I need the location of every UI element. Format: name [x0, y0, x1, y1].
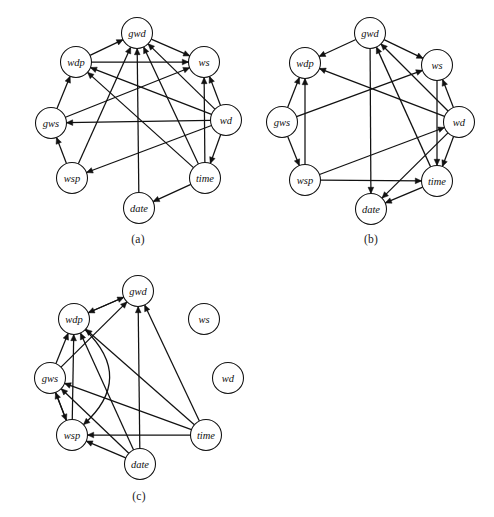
edge-time-to-ws — [204, 78, 205, 163]
node-wsp[interactable]: wsp — [290, 165, 321, 196]
node-label-wd: wd — [222, 373, 235, 384]
arrowhead-gwd-to-date — [368, 187, 374, 193]
node-gwd[interactable]: gwd — [355, 18, 386, 49]
node-wsp[interactable]: wsp — [57, 163, 88, 194]
node-label-gws: gws — [43, 118, 59, 129]
arrowhead-time-to-wsp — [88, 432, 94, 438]
node-ws[interactable]: ws — [189, 47, 220, 78]
arrowhead-time-to-gwd — [376, 47, 381, 54]
graph-panel-c: gwdwdpwsgwswdwsptimedate — [0, 255, 262, 490]
node-wd[interactable]: wd — [444, 107, 475, 138]
arrowhead-gwd-to-wdp — [319, 51, 326, 56]
node-date[interactable]: date — [124, 193, 155, 224]
node-label-gws: gws — [42, 373, 58, 384]
arrowhead-wd-to-ws — [442, 79, 447, 86]
arrowhead-wsp-to-wdp — [302, 79, 308, 85]
arrowhead-ws-to-time — [434, 159, 440, 165]
node-label-wd: wd — [453, 117, 466, 128]
node-label-wsp: wsp — [64, 430, 80, 441]
arrowhead-wd-to-gws — [67, 120, 73, 126]
arrowhead-date-to-wdp — [80, 333, 85, 340]
arrowhead-wsp-to-gws — [56, 137, 61, 144]
arrowhead-time-to-gws — [65, 383, 72, 388]
node-label-wdp: wdp — [67, 57, 85, 68]
node-gws[interactable]: gws — [35, 363, 66, 394]
arrowhead-time-to-date — [385, 198, 392, 203]
node-label-time: time — [197, 430, 215, 441]
edge-wdp-to-wsp — [84, 330, 110, 425]
arrowhead-wdp-to-gwd — [116, 40, 123, 45]
arrowhead-time-to-gwd — [145, 305, 150, 312]
node-label-gwd: gwd — [128, 28, 146, 39]
arrowhead-wsp-to-gwd — [126, 47, 131, 54]
arrowhead-wd-to-wsp — [87, 168, 94, 173]
arrowhead-time-to-gwd — [144, 47, 149, 54]
node-label-gwd: gwd — [129, 286, 147, 297]
edge-gwd-to-ws — [384, 40, 423, 59]
edge-wsp-to-wdp — [72, 335, 73, 420]
node-time[interactable]: time — [422, 166, 453, 197]
edge-date-to-gwd — [137, 49, 139, 193]
arrowhead-gws-to-wdp — [294, 77, 299, 84]
node-ws[interactable]: ws — [422, 50, 453, 81]
node-gws[interactable]: gws — [36, 108, 67, 139]
edge-date-to-gwd — [138, 307, 140, 449]
node-gwd[interactable]: gwd — [123, 276, 154, 307]
node-wd[interactable]: wd — [213, 363, 244, 394]
arrowhead-gws-to-ws — [183, 67, 190, 72]
graph-a-canvas: gwdwdpwsgwswdwsptimedate — [0, 0, 247, 228]
arrowhead-time-to-ws — [201, 78, 207, 84]
arrowhead-gws-to-ws — [416, 70, 423, 75]
node-wdp[interactable]: wdp — [59, 304, 90, 335]
arrowhead-wd-to-wdp — [90, 67, 97, 72]
node-label-wdp: wdp — [296, 58, 314, 69]
arrowhead-wsp-to-wdp — [71, 335, 77, 341]
node-wdp[interactable]: wdp — [61, 47, 92, 78]
node-label-gwd: gwd — [361, 28, 379, 39]
node-wd[interactable]: wd — [211, 105, 242, 136]
arrowhead-time-to-date — [153, 196, 160, 201]
graph-c-canvas: gwdwdpwsgwswdwsptimedate — [0, 255, 262, 490]
arrowhead-gws-to-wdp — [65, 76, 70, 83]
node-label-date: date — [131, 459, 149, 470]
node-label-date: date — [362, 204, 380, 215]
caption-a: (a) — [118, 233, 158, 245]
arrowhead-wd-to-time — [442, 160, 447, 167]
arrowhead-wsp-to-wd — [438, 127, 445, 132]
arrowhead-gwd-to-ws — [416, 53, 423, 58]
arrowhead-wd-to-wdp — [319, 68, 326, 73]
arrowhead-wdp-to-gwd — [117, 297, 124, 302]
node-label-wd: wd — [220, 115, 233, 126]
node-label-wdp: wdp — [65, 314, 83, 325]
node-label-time: time — [196, 173, 214, 184]
node-label-date: date — [130, 203, 148, 214]
node-date[interactable]: date — [356, 194, 387, 225]
node-date[interactable]: date — [125, 449, 156, 480]
caption-b: (b) — [351, 233, 391, 245]
node-label-ws: ws — [198, 57, 209, 68]
node-time[interactable]: time — [191, 420, 222, 451]
figure-page: gwdwdpwsgwswdwsptimedate (a) gwdwdpwsgws… — [0, 0, 494, 517]
node-label-gws: gws — [274, 117, 290, 128]
caption-c: (c) — [119, 490, 159, 502]
arrowhead-wd-to-ws — [209, 76, 214, 83]
node-time[interactable]: time — [190, 163, 221, 194]
arrowhead-date-to-gwd — [134, 49, 140, 55]
node-label-ws: ws — [431, 60, 442, 71]
node-gws[interactable]: gws — [267, 107, 298, 138]
node-gwd[interactable]: gwd — [122, 18, 153, 49]
arrowhead-wd-to-time — [210, 157, 215, 164]
node-wdp[interactable]: wdp — [290, 48, 321, 79]
graph-b-canvas: gwdwdpwsgwswdwsptimedate — [247, 0, 494, 228]
node-ws[interactable]: ws — [189, 304, 220, 335]
arrowhead-wsp-to-time — [415, 178, 421, 184]
graph-panel-b: gwdwdpwsgwswdwsptimedate — [247, 0, 494, 228]
edge-time-to-gws — [65, 383, 192, 429]
arrowhead-gwd-to-ws — [183, 51, 190, 56]
arrowhead-wdp-to-ws — [182, 59, 188, 65]
edge-gws-to-ws — [297, 70, 423, 116]
node-wsp[interactable]: wsp — [57, 420, 88, 451]
graph-panel-a: gwdwdpwsgwswdwsptimedate — [0, 0, 247, 228]
arrowhead-date-to-gwd — [135, 307, 141, 313]
edge-wsp-to-wd — [320, 127, 445, 174]
